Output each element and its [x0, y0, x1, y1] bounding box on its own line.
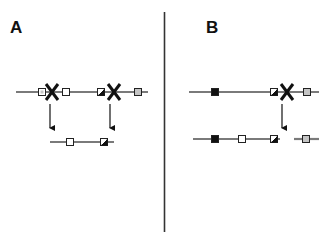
- panel-a: A: [10, 18, 148, 146]
- marker-white-icon: [63, 89, 70, 96]
- chromosome-a-top: [16, 89, 148, 96]
- chromosome-a-bottom: [50, 139, 114, 146]
- marker-white-icon: [67, 139, 74, 146]
- marker-hatched-light-icon: [39, 89, 46, 96]
- marker-hatched-icon: [271, 89, 278, 96]
- recombination-diagram: AB: [0, 0, 329, 240]
- marker-gray-icon: [303, 136, 310, 143]
- panel-label: A: [10, 18, 22, 37]
- marker-black-icon: [212, 89, 219, 96]
- chromosome-b-bottom-right: [294, 136, 319, 143]
- chromosome-b-top: [189, 89, 319, 96]
- chromosome-b-bottom-left: [193, 136, 280, 143]
- marker-black-icon: [212, 136, 219, 143]
- marker-white-icon: [239, 136, 246, 143]
- marker-hatched-icon: [101, 139, 108, 146]
- panel-b: B: [189, 18, 319, 143]
- marker-hatched-icon: [98, 89, 105, 96]
- marker-hatched-icon: [271, 136, 278, 143]
- marker-gray-icon: [135, 89, 142, 96]
- panel-label: B: [206, 18, 218, 37]
- marker-gray-icon: [304, 89, 311, 96]
